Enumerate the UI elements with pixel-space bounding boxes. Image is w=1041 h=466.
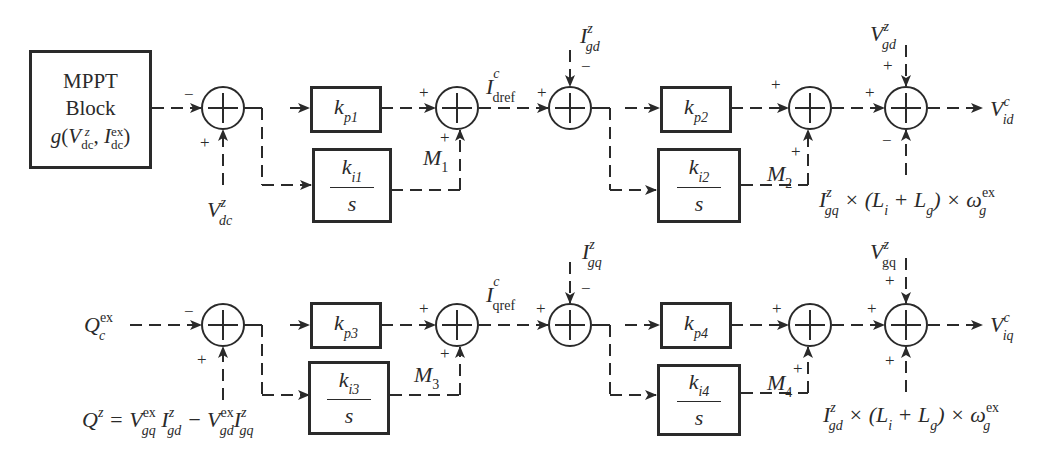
sign-q4-left: + [772, 300, 782, 317]
sign-q3-top: − [581, 280, 591, 297]
sign-d5-top: + [883, 57, 893, 74]
label-m2: M2 [767, 163, 792, 189]
integrator-block-ki4: ki4s [657, 364, 741, 436]
sign-d1-bottom: + [200, 134, 210, 151]
label-igd-z: Izgd [580, 24, 600, 52]
sign-q1-bottom: + [197, 351, 207, 368]
label-qc-ex: Qexc [84, 313, 105, 341]
sign-d4-bottom: + [791, 143, 801, 160]
integrator-block-ki2: ki2s [657, 148, 741, 223]
label-qz-equation: Qz = Vexgq Izgd − VexgdIzgq [82, 408, 253, 436]
sign-q2-left: + [419, 300, 429, 317]
sign-q3-left: + [536, 300, 546, 317]
mppt-subtitle: Block [51, 95, 130, 122]
sign-q4-bottom: + [793, 360, 803, 377]
sum-junction-d2 [436, 87, 478, 129]
label-m1: M1 [423, 147, 448, 173]
integrator-block-ki1: ki1s [312, 148, 392, 223]
sum-junction-d3 [549, 87, 591, 129]
mppt-function: g(Vzdc, Iexdc) [51, 123, 130, 151]
sign-q5-bottom: + [885, 352, 895, 369]
mppt-block: MPPT Block g(Vzdc, Iexdc) [29, 50, 152, 169]
sign-d5-left: + [865, 84, 875, 101]
mppt-title: MPPT [51, 68, 130, 95]
sign-d2-bottom: + [440, 129, 450, 146]
label-vgd-z: Vzgd [870, 22, 896, 50]
sum-junction-q3 [549, 304, 591, 346]
sign-q1-left: − [184, 303, 194, 320]
label-m4: M4 [767, 372, 792, 398]
sum-junction-d5 [885, 87, 927, 129]
label-idref: Icdref [486, 75, 515, 103]
gain-block-kp2: kp2 [660, 86, 732, 133]
sum-junction-q2 [436, 304, 478, 346]
sign-d3-left: + [537, 84, 547, 101]
gain-block-kp3: kp3 [310, 302, 382, 349]
sign-q2-bottom: + [440, 345, 450, 362]
gain-block-kp4: kp4 [660, 302, 732, 349]
sum-junction-d1 [202, 87, 244, 129]
label-output-vid: Vcid [990, 97, 1014, 125]
label-vgq-z: Vzgq [870, 240, 896, 268]
sign-d3-top: − [581, 58, 591, 75]
sign-d1-left: − [184, 86, 194, 103]
sign-d4-left: + [771, 76, 781, 93]
sign-q5-top: + [885, 272, 895, 289]
sum-junction-q4 [789, 304, 831, 346]
label-vdc-z: Vzdc [207, 198, 232, 226]
sum-junction-q5 [885, 304, 927, 346]
integrator-block-ki3: ki3s [308, 361, 390, 435]
gain-block-kp1: kp1 [310, 86, 382, 133]
label-output-viq: Vciq [990, 313, 1014, 341]
sign-d2-left: + [419, 84, 429, 101]
sum-junction-q1 [202, 304, 244, 346]
sum-junction-d4 [789, 87, 831, 129]
label-iqref: Icqref [486, 283, 515, 311]
label-m3: M3 [414, 364, 439, 390]
sign-q5-left: + [867, 300, 877, 317]
sign-d5-bottom: − [882, 132, 892, 149]
label-igq-z: Izgq [582, 240, 602, 268]
label-d-coupling-term: Izgq × (Li + Lg) × ωexg [819, 188, 986, 216]
label-q-coupling-term: Izgd × (Li + Lg) × ωexg [823, 403, 990, 431]
